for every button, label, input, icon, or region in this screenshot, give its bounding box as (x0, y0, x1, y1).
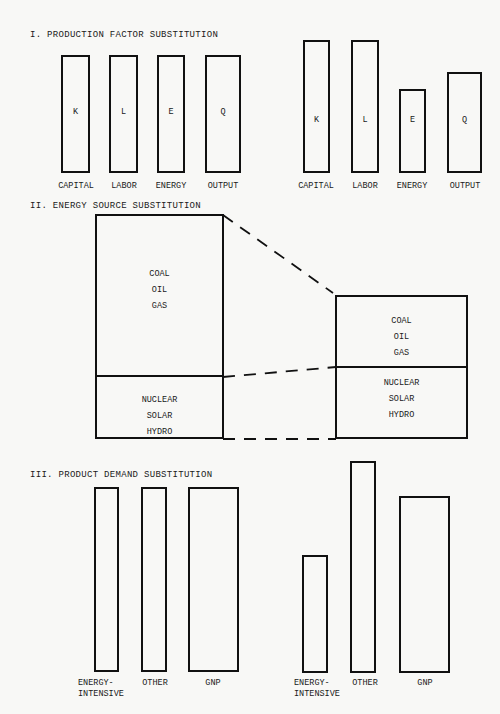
label-output: OUTPUT (202, 181, 244, 191)
label-energy: ENERGY (151, 181, 191, 191)
label-other: OTHER (345, 678, 385, 688)
section-title-production-factor: I. PRODUCTION FACTOR SUBSTITUTION (30, 30, 218, 40)
label-gnp: GNP (405, 678, 445, 688)
source-solar: SOLAR (96, 408, 223, 424)
label-output: OUTPUT (444, 181, 486, 191)
label-capital: CAPITAL (295, 181, 337, 191)
bar-other-after (351, 462, 375, 672)
source-hydro: HYDRO (336, 407, 467, 423)
section-title-energy-source: II. ENERGY SOURCE SUBSTITUTION (30, 201, 201, 211)
label-energy-intensive: ENERGY- INTENSIVE (78, 678, 134, 700)
source-gas: GAS (336, 345, 467, 361)
bar-labor-after (352, 41, 378, 172)
label-energy-intensive: ENERGY- INTENSIVE (294, 678, 350, 700)
bar-capital-after (304, 41, 329, 172)
source-gas: GAS (96, 298, 223, 314)
bar-energy-after (400, 90, 425, 172)
letter-k: K (62, 107, 89, 117)
label-labor: LABOR (104, 181, 144, 191)
bar-energy-intensive-before (95, 488, 118, 671)
bar-energy-intensive-after (303, 556, 327, 672)
fossil-sources-after: COAL OIL GAS (336, 313, 467, 361)
source-nuclear: NUCLEAR (336, 375, 467, 391)
letter-q: Q (206, 107, 240, 117)
bar-other-before (142, 488, 166, 671)
letter-l: L (110, 107, 137, 117)
label-labor: LABOR (345, 181, 385, 191)
fossil-sources-before: COAL OIL GAS (96, 266, 223, 314)
letter-l: L (352, 115, 378, 125)
label-other: OTHER (135, 678, 175, 688)
label-gnp: GNP (193, 678, 233, 688)
letter-q: Q (448, 115, 481, 125)
source-hydro: HYDRO (96, 424, 223, 440)
connector-top (223, 215, 333, 293)
alt-sources-after: NUCLEAR SOLAR HYDRO (336, 375, 467, 423)
section-title-product-demand: III. PRODUCT DEMAND SUBSTITUTION (30, 470, 212, 480)
source-coal: COAL (336, 313, 467, 329)
source-coal: COAL (96, 266, 223, 282)
letter-e: E (400, 115, 425, 125)
source-oil: OIL (336, 329, 467, 345)
label-energy: ENERGY (392, 181, 432, 191)
letter-k: K (304, 115, 329, 125)
bar-gnp-after (400, 497, 449, 672)
bar-gnp-before (189, 488, 238, 671)
letter-e: E (158, 107, 184, 117)
source-solar: SOLAR (336, 391, 467, 407)
connector-mid (223, 367, 336, 377)
source-nuclear: NUCLEAR (96, 392, 223, 408)
alt-sources-before: NUCLEAR SOLAR HYDRO (96, 392, 223, 440)
label-capital: CAPITAL (55, 181, 97, 191)
source-oil: OIL (96, 282, 223, 298)
